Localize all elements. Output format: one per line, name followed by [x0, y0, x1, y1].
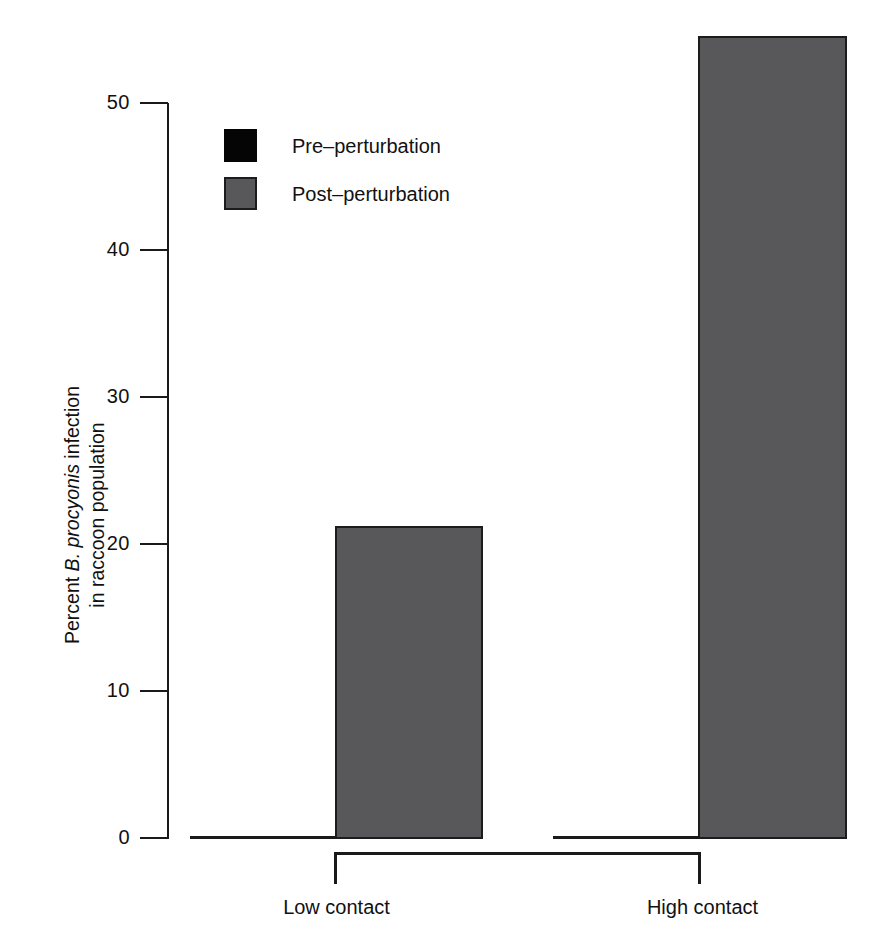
legend-label-post-perturbation: Post–perturbation: [292, 183, 450, 205]
legend-item-post-perturbation: Post–perturbation: [224, 177, 450, 210]
y-tick-label-0-wrap: 0: [60, 827, 130, 847]
y-tick-label-50-wrap: 50: [60, 92, 130, 112]
legend-item-pre-perturbation: Pre–perturbation: [224, 129, 441, 162]
y-tick-label-40-wrap: 40: [60, 239, 130, 259]
y-tick-label-10-wrap: 10: [60, 680, 130, 700]
x-axis-group-bracket: [334, 852, 701, 884]
x-axis-label-high-contact: High contact: [620, 896, 785, 918]
y-tick-label-20-wrap: 20: [60, 533, 130, 553]
y-tick-label-50: 50: [60, 92, 130, 112]
y-axis-spine: [167, 103, 169, 839]
y-tick-10: [140, 690, 168, 692]
y-tick-30: [140, 396, 168, 398]
legend-swatch-post-perturbation: [224, 177, 257, 210]
y-tick-label-20: 20: [60, 533, 130, 553]
y-axis-title: Percent B. procyonis infection in raccoo…: [60, 195, 110, 835]
y-axis-title-species: B. procyonis: [61, 464, 83, 571]
x-axis-label-low-contact: Low contact: [254, 896, 419, 918]
y-tick-20: [140, 543, 168, 545]
y-axis-title-prefix: Percent: [61, 571, 83, 644]
y-tick-40: [140, 249, 168, 251]
bar-high-contact-post-perturbation: [698, 36, 847, 839]
y-axis-title-line-1: Percent B. procyonis infection: [60, 195, 85, 835]
y-axis-title-line-2: in raccoon population: [85, 195, 110, 835]
y-tick-label-30-wrap: 30: [60, 386, 130, 406]
y-tick-50: [140, 102, 168, 104]
bar-high-contact-pre-perturbation: [553, 836, 698, 839]
bar-chart-figure: Percent B. procyonis infection in raccoo…: [0, 0, 884, 952]
y-tick-label-10: 10: [60, 680, 130, 700]
legend-swatch-pre-perturbation: [224, 129, 257, 162]
bar-low-contact-post-perturbation: [335, 526, 483, 839]
y-tick-label-0: 0: [60, 827, 130, 847]
y-tick-label-30: 30: [60, 386, 130, 406]
y-tick-label-40: 40: [60, 239, 130, 259]
bar-low-contact-pre-perturbation: [190, 836, 335, 839]
legend-label-pre-perturbation: Pre–perturbation: [292, 135, 441, 157]
y-tick-0: [140, 837, 168, 839]
